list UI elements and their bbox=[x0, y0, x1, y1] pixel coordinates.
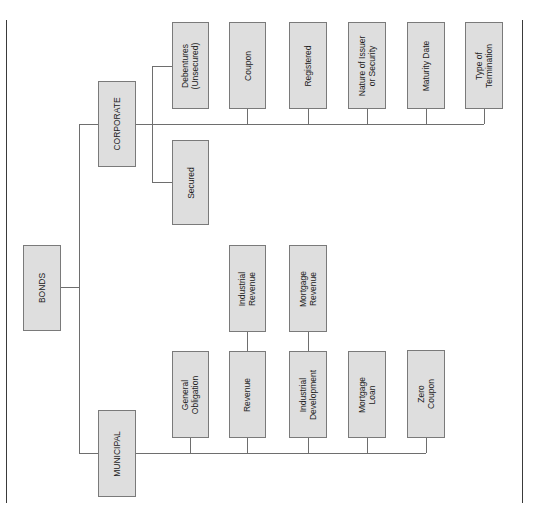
node-label: BONDS bbox=[37, 273, 47, 303]
connector-coupon bbox=[247, 109, 248, 124]
connector-mortgage-loan bbox=[367, 438, 368, 453]
node-label: Type of Termination bbox=[474, 44, 494, 88]
node-zero-coupon: Zero Coupon bbox=[407, 350, 445, 438]
node-label: Secured bbox=[185, 167, 195, 199]
connector-general-obligation bbox=[190, 438, 191, 453]
connector-debentures bbox=[152, 66, 172, 67]
node-mortgage-revenue: Mortgage Revenue bbox=[289, 245, 327, 332]
connector-trunk bbox=[79, 124, 80, 454]
node-nature-of-issuer: Nature of Issuer or Security bbox=[348, 22, 386, 109]
node-registered: Registered bbox=[289, 22, 327, 109]
node-mortgage-loan: Mortgage Loan bbox=[348, 351, 386, 438]
connector-municipal-types bbox=[136, 453, 426, 454]
node-label: MUNICIPAL bbox=[112, 431, 122, 477]
node-corporate: CORPORATE bbox=[98, 81, 136, 167]
connector-secured bbox=[152, 182, 172, 183]
connector-bonds bbox=[61, 287, 79, 288]
node-label: Maturity Date bbox=[421, 40, 431, 91]
connector-revenue bbox=[247, 438, 248, 453]
connector-mortgage-revenue bbox=[308, 332, 309, 351]
connector-registered bbox=[308, 109, 309, 124]
node-general-obligation: General Obligation bbox=[172, 351, 209, 438]
node-label: Industrial Revenue bbox=[238, 271, 258, 306]
node-label: Industrial Development bbox=[298, 369, 318, 419]
node-secured: Secured bbox=[172, 140, 209, 225]
node-label: General Obligation bbox=[181, 375, 201, 413]
node-maturity-date: Maturity Date bbox=[407, 22, 445, 109]
node-label: Mortgage Revenue bbox=[298, 271, 318, 307]
connector-to-corporate bbox=[79, 124, 98, 125]
node-coupon: Coupon bbox=[229, 22, 266, 109]
node-type-of-termination: Type of Termination bbox=[465, 22, 503, 109]
left-rule bbox=[6, 20, 7, 503]
connector-to-municipal bbox=[79, 453, 98, 454]
node-label: Registered bbox=[303, 45, 313, 86]
node-municipal: MUNICIPAL bbox=[98, 410, 136, 497]
node-label: Mortgage Loan bbox=[357, 377, 377, 413]
connector-nature bbox=[367, 109, 368, 124]
node-label: Coupon bbox=[243, 51, 253, 81]
node-industrial-revenue: Industrial Revenue bbox=[229, 245, 266, 332]
connector-industrial-revenue bbox=[247, 332, 248, 351]
right-rule bbox=[522, 20, 523, 503]
node-label: Revenue bbox=[243, 377, 253, 411]
node-label: Debentures (Unsecured) bbox=[181, 42, 201, 89]
node-label: CORPORATE bbox=[112, 97, 122, 150]
connector-zero-coupon bbox=[426, 438, 427, 453]
node-label: Zero Coupon bbox=[416, 379, 436, 409]
node-debentures: Debentures (Unsecured) bbox=[172, 22, 209, 109]
connector-maturity bbox=[426, 109, 427, 124]
node-revenue: Revenue bbox=[229, 351, 266, 438]
connector-termination bbox=[484, 109, 485, 124]
connector-corporate-features bbox=[136, 124, 484, 125]
node-industrial-development: Industrial Development bbox=[289, 351, 327, 438]
node-label: Nature of Issuer or Security bbox=[357, 35, 377, 95]
connector-industrial-development bbox=[308, 438, 309, 453]
connector-secured-trunk bbox=[152, 66, 153, 183]
node-bonds: BONDS bbox=[23, 245, 61, 331]
